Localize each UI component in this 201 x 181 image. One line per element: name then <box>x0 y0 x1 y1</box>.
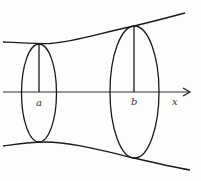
solid-of-revolution-diagram: a b x <box>0 0 201 181</box>
label-x: x <box>172 96 178 107</box>
label-b: b <box>131 96 137 107</box>
diagram-canvas: a b x <box>0 0 201 181</box>
label-a: a <box>36 97 42 108</box>
upper-boundary-curve <box>3 13 185 44</box>
lower-boundary-curve <box>3 142 190 170</box>
